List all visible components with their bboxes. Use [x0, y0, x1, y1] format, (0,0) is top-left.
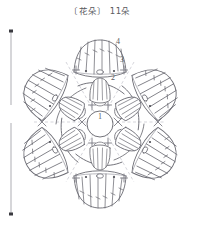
- round-label-1: 1: [98, 112, 102, 121]
- round-label-4: 4: [116, 37, 120, 46]
- inner-petal-top: [90, 78, 110, 106]
- crochet-chart: 1 2 3 4: [0, 0, 200, 228]
- round-label-2: 2: [111, 73, 115, 82]
- inner-petal-bottom: [90, 142, 110, 170]
- round-label-3: 3: [120, 55, 124, 64]
- dimension-line: [4, 30, 18, 216]
- pattern-diagram-page: 〔花朵〕 11朵 7: [0, 0, 200, 228]
